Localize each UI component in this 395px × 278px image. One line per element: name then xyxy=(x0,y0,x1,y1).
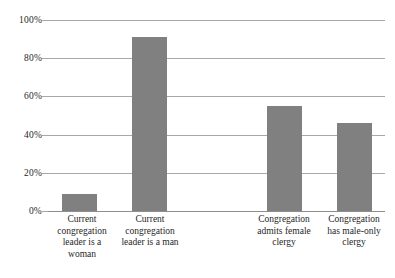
y-axis-tick-label-80: 80% xyxy=(0,53,42,63)
tick-dash-80 xyxy=(42,58,48,59)
x-axis-label-male-only-clergy: Congregation has male-only clergy xyxy=(312,214,395,249)
bar-current-leader-woman[interactable] xyxy=(62,194,97,211)
tick-dash-100 xyxy=(42,20,48,21)
x-axis-label-line: Congregation xyxy=(312,214,395,226)
y-axis-tick-label-0: 0% xyxy=(0,206,42,216)
gridline-line-80 xyxy=(48,58,385,59)
gridline-line-40 xyxy=(48,135,385,136)
gridline-line-20 xyxy=(48,173,385,174)
bar-chart: 100% 80% 60% 40% 20% 0% xyxy=(0,0,395,278)
x-axis-category-labels: Current congregation leader is a woman C… xyxy=(48,214,385,274)
x-axis-label-line: woman xyxy=(40,249,124,261)
tick-dash-0 xyxy=(42,211,48,212)
bar-admits-female-clergy[interactable] xyxy=(267,106,302,211)
bar-current-leader-man[interactable] xyxy=(132,37,167,211)
y-axis-tick-label-60: 60% xyxy=(0,91,42,101)
tick-dash-40 xyxy=(42,135,48,136)
y-axis-tick-label-40: 40% xyxy=(0,130,42,140)
x-axis-label-line: clergy xyxy=(312,237,395,249)
y-axis-tick-label-20: 20% xyxy=(0,168,42,178)
x-axis-label-line: congregation xyxy=(108,226,192,238)
y-axis-tick-label-100: 100% xyxy=(0,15,42,25)
x-axis-label-line: Current xyxy=(108,214,192,226)
gridline-line-60 xyxy=(48,96,385,97)
tick-dash-20 xyxy=(42,173,48,174)
bar-male-only-clergy[interactable] xyxy=(337,123,372,211)
x-axis-label-current-leader-man: Current congregation leader is a man xyxy=(108,214,192,249)
x-axis-label-line: has male-only xyxy=(312,226,395,238)
gridline-line-100 xyxy=(48,20,385,21)
plot-area: 100% 80% 60% 40% 20% 0% xyxy=(48,20,385,211)
x-axis-line xyxy=(48,211,385,212)
tick-dash-60 xyxy=(42,96,48,97)
x-axis-label-line: leader is a man xyxy=(108,237,192,249)
